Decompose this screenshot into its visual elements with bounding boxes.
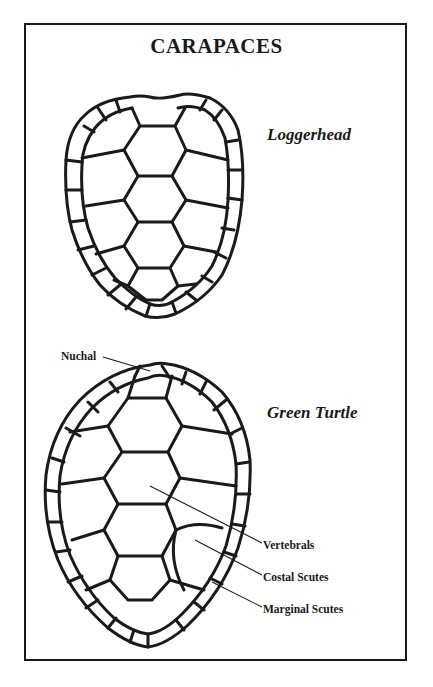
carapace-illustrations — [0, 0, 433, 687]
label-vertebrals: Vertebrals — [263, 539, 314, 551]
label-nuchal: Nuchal — [61, 350, 96, 362]
marginal-leader — [212, 582, 262, 607]
green-turtle-carapace — [45, 363, 250, 647]
species-label-green-turtle: Green Turtle — [267, 403, 358, 423]
loggerhead-carapace — [66, 94, 243, 318]
label-costal-scutes: Costal Scutes — [263, 571, 329, 583]
species-label-loggerhead: Loggerhead — [267, 125, 351, 145]
leader-lines — [103, 357, 262, 607]
label-marginal-scutes: Marginal Scutes — [263, 603, 343, 615]
